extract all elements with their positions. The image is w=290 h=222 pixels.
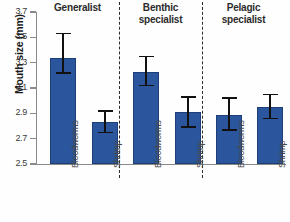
error-bar-cap-top [222,97,237,99]
error-bar-line [62,34,64,73]
x-tick-label: Bloodworms [70,120,80,168]
error-bar-line [104,111,106,133]
error-bar-cap-bottom [98,132,113,134]
error-bar-cap-bottom [139,85,154,87]
error-bar-line [187,97,189,127]
error-bar-cap-top [56,33,71,35]
y-tick-label: 3.1 [3,82,27,92]
x-tick-label: Shrimp [195,141,205,168]
error-bar-cap-top [181,96,196,98]
y-tick-label: 2.5 [3,158,27,168]
error-bar-line [269,94,271,118]
y-tick-label: 2.9 [3,107,27,117]
x-tick-label: Bloodworms [153,120,163,168]
bar-chart: Mouth size (mm) 3.73.53.33.12.92.72.5 Ge… [0,0,290,222]
error-bar-cap-bottom [222,129,237,131]
x-tick-label: Shrimp [277,141,287,168]
error-bar-cap-top [98,110,113,112]
group-label-2: Benthicspecialist [119,2,202,25]
y-tick-label: 3.7 [3,6,27,16]
error-bar-cap-bottom [181,126,196,128]
x-tick-label: Shrimp [112,141,122,168]
x-tick-label: Bloodworms [236,120,246,168]
y-tick-label: 2.7 [3,133,27,143]
group-label-1: Generalist [36,2,119,14]
error-bar-line [228,98,230,130]
error-bar-cap-top [263,94,278,96]
error-bar-cap-bottom [263,118,278,120]
error-bar-cap-bottom [56,72,71,74]
y-tick-label: 3.5 [3,31,27,41]
error-bar-line [145,56,147,85]
error-bar-cap-top [139,56,154,58]
group-label-3: Pelagicspecialist [202,2,285,25]
y-tick-label: 3.3 [3,57,27,67]
y-axis-title: Mouth size (mm) [13,0,25,109]
